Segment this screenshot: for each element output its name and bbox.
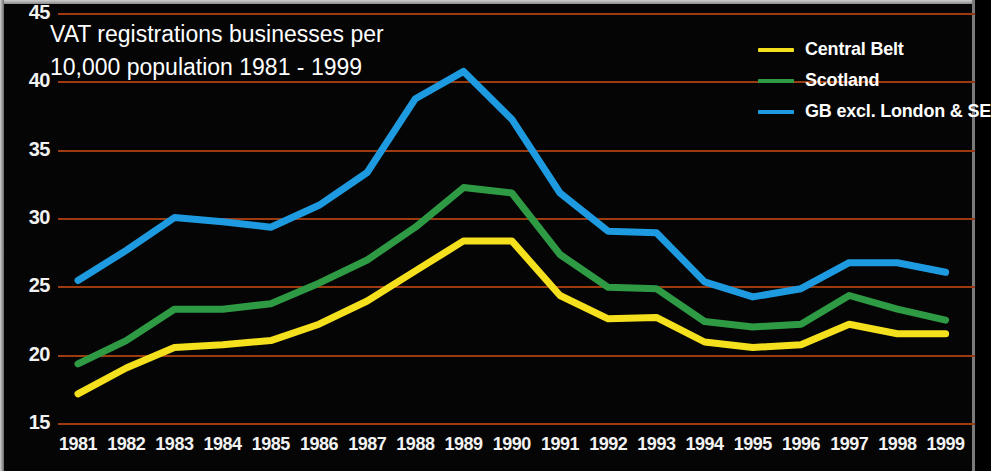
- legend-swatch-icon: [758, 79, 794, 83]
- title-line-2: 10,000 population 1981 - 1999: [50, 51, 384, 84]
- page-title: VAT registrations businesses per 10,000 …: [50, 18, 384, 84]
- legend-swatch-icon: [758, 48, 794, 52]
- legend-item-scotland: Scotland: [758, 65, 991, 96]
- legend-label: Central Belt: [805, 39, 904, 60]
- legend-item-gb-excl-london-se: GB excl. London & SE: [758, 96, 991, 127]
- title-line-1: VAT registrations businesses per: [50, 18, 384, 51]
- legend: Central BeltScotlandGB excl. London & SE: [758, 34, 991, 127]
- legend-swatch-icon: [758, 110, 794, 114]
- legend-item-central-belt: Central Belt: [758, 34, 991, 65]
- legend-label: GB excl. London & SE: [805, 101, 991, 122]
- legend-label: Scotland: [805, 70, 879, 91]
